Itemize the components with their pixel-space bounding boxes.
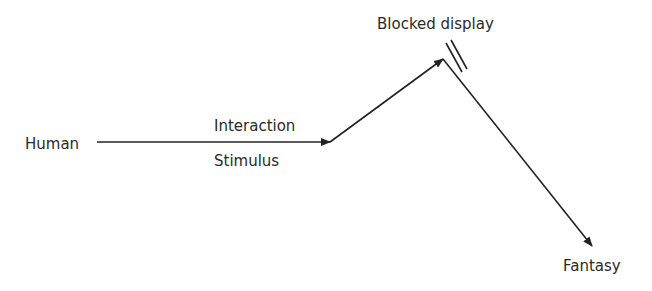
diagram-arrows: [0, 0, 652, 291]
node-human: Human: [25, 135, 79, 153]
diagram-canvas: Human Interaction Stimulus Blocked displ…: [0, 0, 652, 291]
node-fantasy: Fantasy: [563, 257, 621, 275]
edge-label-stimulus: Stimulus: [214, 152, 279, 170]
block-bar-1: [446, 43, 462, 72]
arrow-to-blocked: [330, 59, 443, 142]
edge-label-interaction: Interaction: [214, 117, 295, 135]
node-blocked-display: Blocked display: [377, 15, 494, 33]
block-bar-2: [451, 40, 467, 69]
arrow-to-fantasy: [443, 59, 592, 246]
